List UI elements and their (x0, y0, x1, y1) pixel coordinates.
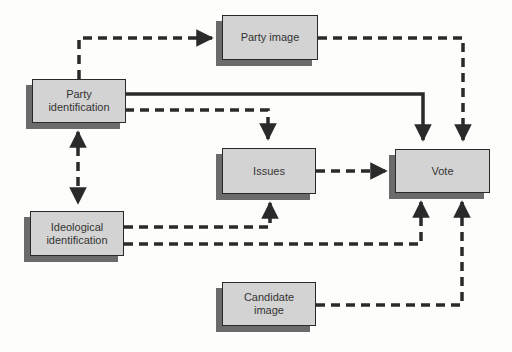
node-vote: Vote (395, 149, 490, 193)
node-party-identification: Party identification (32, 79, 126, 123)
node-label: Issues (253, 165, 285, 178)
voting-model-diagram: Party identification Party image Issues … (0, 0, 512, 352)
edge-partyid-to-issues (125, 110, 268, 139)
node-label: Party image (241, 31, 300, 44)
node-label: Candidate (244, 291, 294, 304)
edge-ideological-to-vote (124, 202, 421, 244)
node-ideological-identification: Ideological identification (30, 211, 124, 256)
node-label: Vote (431, 165, 453, 178)
node-label: identification (46, 234, 107, 247)
edge-candidate-to-vote (316, 202, 462, 305)
edge-partyimage-to-vote (318, 38, 463, 140)
node-candidate-image: Candidate image (222, 282, 316, 326)
edge-ideological-to-issues (124, 203, 270, 227)
node-label: Party (48, 88, 109, 101)
node-label: identification (48, 101, 109, 114)
node-label: image (244, 304, 294, 317)
node-issues: Issues (222, 148, 316, 194)
edge-partyid-to-partyimage (79, 38, 212, 79)
node-label: Ideological (46, 221, 107, 234)
edge-partyid-to-vote (125, 94, 423, 140)
node-party-image: Party image (222, 15, 318, 60)
